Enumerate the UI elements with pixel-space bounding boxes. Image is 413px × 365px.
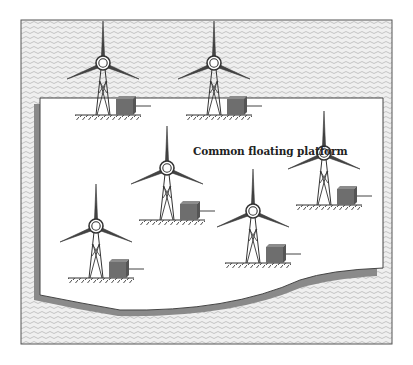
offshore-wind-diagram (0, 0, 413, 365)
platform-label: Common floating platform (193, 145, 347, 157)
